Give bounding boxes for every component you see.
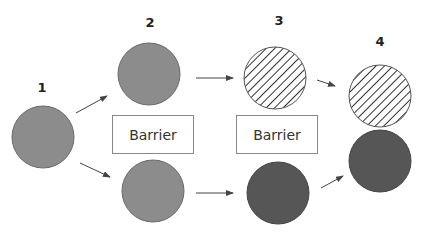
arrow-1-to-2-bottom — [80, 163, 110, 177]
barrier-box-1: Barrier — [113, 116, 194, 154]
arrow-3-to-4-bottom — [321, 176, 343, 188]
stage-label-2: 2 — [145, 15, 154, 30]
barrier-label-1: Barrier — [129, 127, 177, 143]
barrier-label-2: Barrier — [253, 127, 301, 143]
stage3-bottom-circle — [247, 162, 309, 224]
arrow-1-to-2-top — [76, 96, 107, 113]
stage2-top-circle — [118, 43, 180, 105]
stage-label-1: 1 — [37, 80, 46, 95]
stage4-bottom-circle — [349, 130, 411, 192]
stage1-circle — [12, 106, 74, 168]
diagram-canvas: 1 2 3 4 Barrier Barrier — [0, 0, 421, 234]
arrow-3-to-4-top — [317, 80, 335, 86]
stage-label-3: 3 — [274, 13, 283, 28]
stage3-top-circle — [244, 47, 306, 109]
stage-label-4: 4 — [375, 34, 384, 49]
stage2-bottom-circle — [122, 160, 184, 222]
barrier-box-2: Barrier — [237, 116, 318, 154]
stage4-top-circle — [349, 65, 411, 127]
